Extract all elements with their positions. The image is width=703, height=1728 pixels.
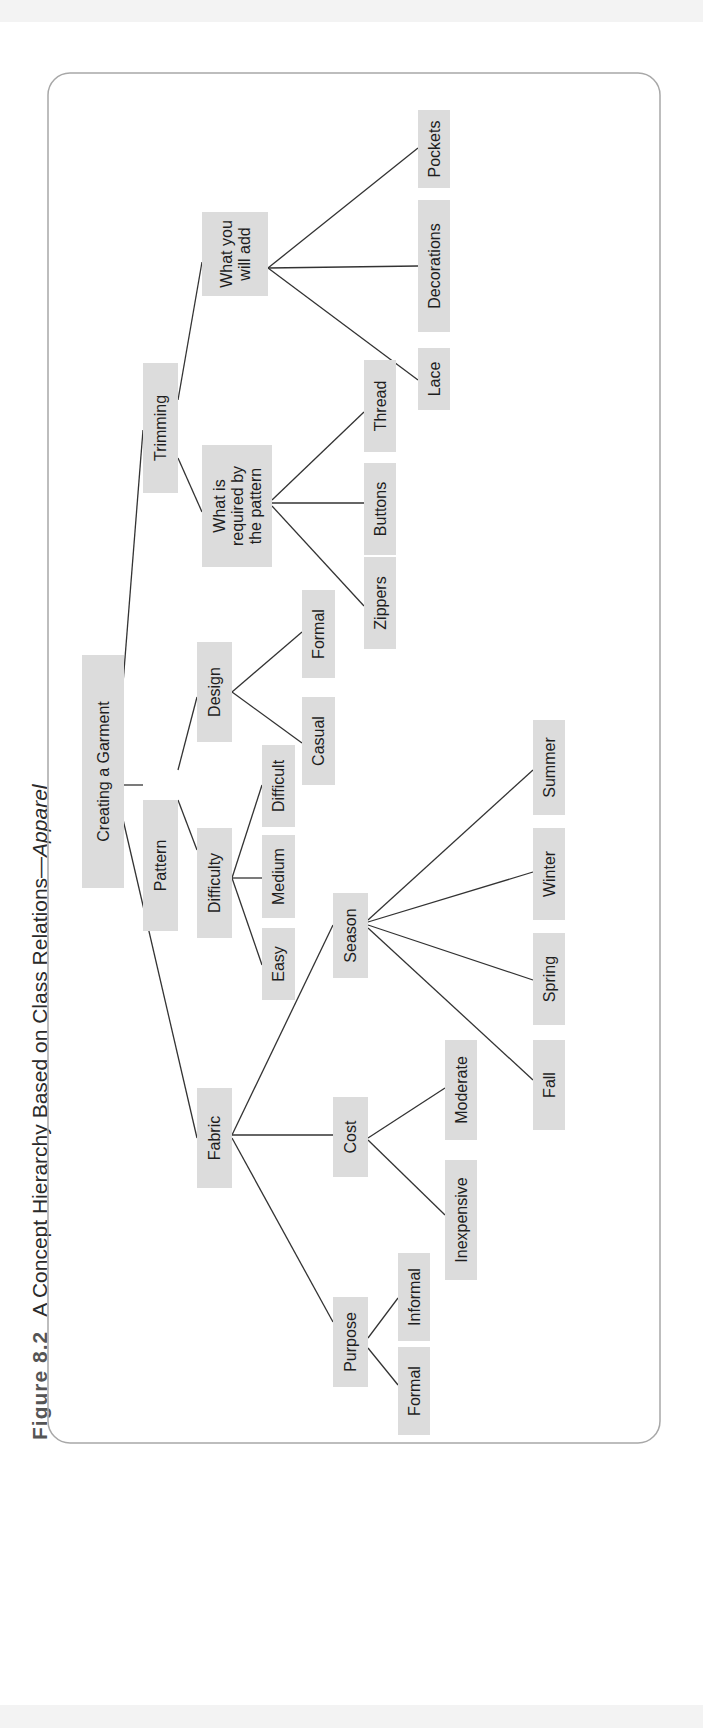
node-design: Design: [197, 642, 232, 742]
node-pockets: Pockets: [418, 110, 450, 188]
concept-hierarchy-diagram: Creating a GarmentTrimmingPatternFabricW…: [0, 0, 703, 1728]
connector-line: [232, 632, 302, 692]
connector-line: [268, 266, 418, 268]
node-purpose: Purpose: [333, 1297, 368, 1387]
node-trimming: Trimming: [143, 363, 178, 493]
node-label: Medium: [270, 848, 287, 905]
connector-line: [178, 458, 202, 512]
node-easy: Easy: [262, 928, 295, 1000]
node-moderate: Moderate: [445, 1040, 477, 1140]
node-casual: Casual: [302, 697, 335, 785]
node-label: Winter: [541, 850, 558, 897]
connector-line: [232, 785, 262, 878]
node-cost: Cost: [333, 1097, 368, 1177]
node-add: What youwill add: [202, 212, 268, 296]
connector-line: [268, 148, 418, 268]
node-label: Difficult: [270, 759, 287, 812]
node-required: What isrequired bythe pattern: [202, 445, 272, 567]
node-label: Lace: [426, 362, 443, 397]
node-label: Fabric: [206, 1116, 223, 1160]
node-label: Fall: [541, 1072, 558, 1098]
node-informal: Informal: [398, 1253, 430, 1341]
node-formal_design: Formal: [302, 590, 335, 678]
node-winter: Winter: [533, 828, 565, 920]
node-spring: Spring: [533, 933, 565, 1025]
node-pattern: Pattern: [143, 800, 178, 931]
node-label: Zippers: [372, 576, 389, 629]
connector-line: [232, 878, 262, 965]
node-label: Moderate: [453, 1056, 470, 1124]
node-root: Creating a Garment: [82, 655, 124, 888]
node-label: What youwill add: [218, 220, 253, 288]
node-fall: Fall: [533, 1040, 565, 1130]
node-formal_purpose: Formal: [398, 1347, 430, 1435]
node-thread: Thread: [364, 360, 396, 452]
node-label: Summer: [541, 737, 558, 798]
node-label: Buttons: [372, 482, 389, 536]
node-buttons: Buttons: [364, 463, 396, 555]
node-label: Purpose: [342, 1312, 359, 1372]
node-season: Season: [333, 893, 368, 978]
connector-line: [178, 800, 197, 850]
connector-line: [368, 1298, 398, 1338]
node-difficulty: Difficulty: [197, 828, 232, 938]
node-zippers: Zippers: [364, 557, 396, 649]
connector-line: [368, 1348, 398, 1385]
connector-line: [368, 1140, 445, 1215]
node-decorations: Decorations: [418, 200, 450, 332]
node-summer: Summer: [533, 720, 565, 815]
node-lace: Lace: [418, 348, 450, 410]
node-label: Pattern: [152, 840, 169, 892]
connector-line: [178, 697, 197, 770]
node-label: Casual: [310, 716, 327, 766]
node-label: Inexpensive: [453, 1177, 470, 1262]
connector-line: [232, 692, 302, 743]
node-label: Difficulty: [206, 853, 223, 913]
node-label: Cost: [342, 1120, 359, 1153]
node-difficult: Difficult: [262, 745, 295, 827]
node-label: Pockets: [426, 121, 443, 178]
node-label: Thread: [372, 381, 389, 432]
node-label: Formal: [310, 609, 327, 659]
node-label: Easy: [270, 946, 287, 982]
connector-line: [178, 262, 202, 400]
node-label: Season: [342, 908, 359, 962]
node-label: Spring: [541, 956, 558, 1002]
diagram-frame: [48, 73, 660, 1443]
node-label: Informal: [406, 1268, 423, 1326]
connector-line: [368, 1088, 445, 1138]
node-label: Formal: [406, 1366, 423, 1416]
node-label: Trimming: [152, 395, 169, 461]
node-label: Creating a Garment: [95, 701, 112, 842]
node-inexpensive: Inexpensive: [445, 1160, 477, 1280]
node-medium: Medium: [262, 835, 295, 918]
node-fabric: Fabric: [197, 1088, 232, 1188]
node-label: Design: [206, 667, 223, 717]
connector-line: [272, 412, 364, 500]
connector-line: [232, 1138, 333, 1322]
node-label: Decorations: [426, 223, 443, 308]
connector-line: [368, 925, 533, 980]
